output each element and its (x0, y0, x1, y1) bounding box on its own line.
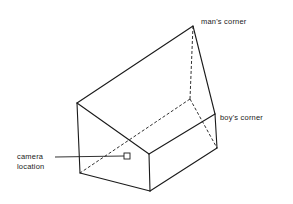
ames-room-diagram: man's corner boy's corner camera locatio… (0, 0, 293, 204)
camera-icon (124, 153, 130, 159)
edge-left-bottom (80, 173, 150, 191)
edge-man-to-boy (193, 26, 215, 114)
edge-diagonal-front (77, 103, 149, 154)
edge-left-vertical (77, 103, 80, 173)
boy-corner-label: boy's corner (220, 113, 263, 122)
edge-front-vertical (149, 154, 150, 191)
hidden-edge-back-floor-left (80, 99, 190, 173)
hidden-edge-back-vertical (190, 26, 193, 99)
edge-right-bottom (150, 148, 217, 191)
room-wireframe (0, 0, 293, 204)
man-corner-label: man's corner (201, 17, 247, 26)
camera-label-line2: location (17, 162, 44, 171)
camera-pointer-line (55, 156, 124, 157)
edge-top-ridge (77, 26, 193, 103)
edge-boy-vertical (215, 114, 217, 148)
camera-label-line1: camera (17, 152, 43, 161)
